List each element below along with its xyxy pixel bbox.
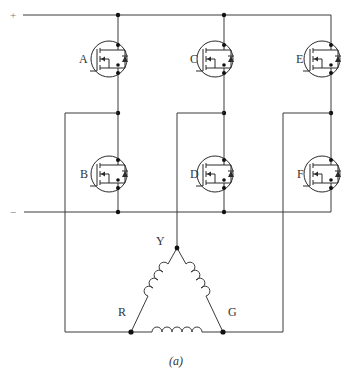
circuit-diagram: + − A B C D E <box>0 0 358 374</box>
mosfet-f-icon <box>303 156 341 192</box>
mosfet-a-icon <box>90 41 128 77</box>
figure-caption: (a) <box>169 354 183 368</box>
terminal-label-y: Y <box>156 234 165 248</box>
switch-label-f: F <box>297 167 304 181</box>
mosfet-e-icon <box>303 41 341 77</box>
mosfet-d-icon <box>196 156 234 192</box>
terminal-y-node <box>175 246 180 251</box>
switch-label-d: D <box>190 167 199 181</box>
switch-label-b: B <box>80 167 88 181</box>
switch-label-c: C <box>190 52 198 66</box>
switch-label-a: A <box>79 52 88 66</box>
output-wiring <box>65 113 331 332</box>
delta-windings: Y R G <box>118 234 237 335</box>
mosfet-b-icon <box>90 156 128 192</box>
terminal-label-g: G <box>228 305 237 319</box>
positive-rail: + <box>10 9 331 21</box>
positive-rail-label: + <box>10 9 16 21</box>
negative-rail-label: − <box>10 206 16 218</box>
terminal-g-node <box>220 329 225 334</box>
terminal-r-node <box>128 329 133 334</box>
mosfet-c-icon <box>196 41 234 77</box>
switch-label-e: E <box>296 52 303 66</box>
terminal-label-r: R <box>118 305 126 319</box>
